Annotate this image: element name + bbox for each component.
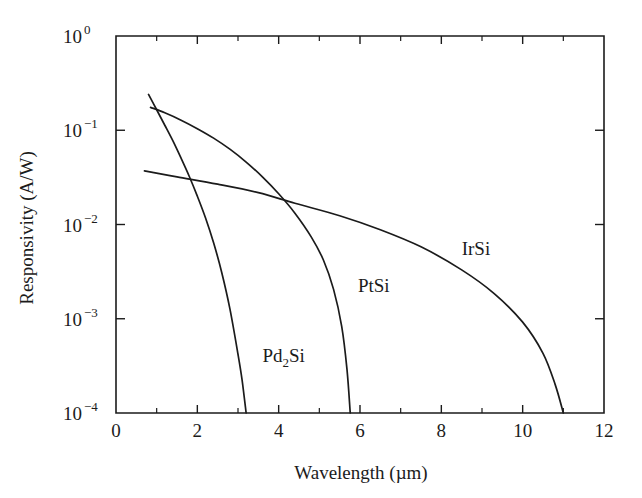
x-tick-label-4: 4 xyxy=(274,420,284,441)
x-axis-title: Wavelength (µm) xyxy=(294,462,427,484)
svg-text:−2: −2 xyxy=(84,211,98,226)
svg-text:10: 10 xyxy=(63,403,82,424)
x-tick-label-6: 6 xyxy=(355,420,365,441)
curve-label-IrSi: IrSi xyxy=(462,238,491,259)
svg-text:10: 10 xyxy=(63,26,82,47)
svg-text:−3: −3 xyxy=(84,305,98,320)
x-tick-label-10: 10 xyxy=(513,420,532,441)
svg-text:−4: −4 xyxy=(84,399,98,414)
chart-figure: 024681012 10010−110−210−310−4 Pd2SiPtSiI… xyxy=(0,0,642,498)
x-tick-label-8: 8 xyxy=(437,420,447,441)
curve-label-PtSi: PtSi xyxy=(358,275,390,296)
x-tick-label-2: 2 xyxy=(193,420,203,441)
figure-background xyxy=(0,0,642,498)
responsivity-wavelength-chart: 024681012 10010−110−210−310−4 Pd2SiPtSiI… xyxy=(0,0,642,498)
svg-text:10: 10 xyxy=(63,215,82,236)
svg-text:10: 10 xyxy=(63,120,82,141)
svg-text:10: 10 xyxy=(63,309,82,330)
y-axis-title: Responsivity (A/W) xyxy=(16,151,38,305)
x-tick-label-12: 12 xyxy=(595,420,614,441)
svg-text:−1: −1 xyxy=(84,116,98,131)
x-tick-label-0: 0 xyxy=(111,420,121,441)
svg-text:0: 0 xyxy=(84,22,91,37)
